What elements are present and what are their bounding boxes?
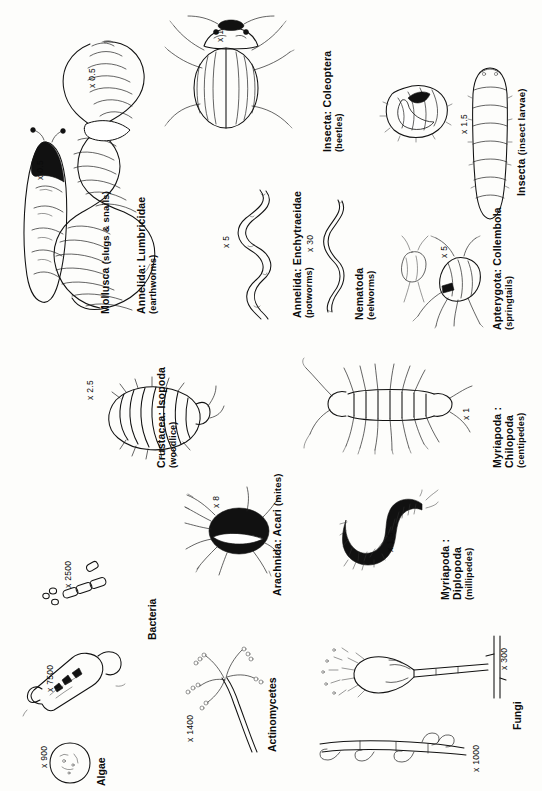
diplopoda-taxon-line2: Diplopoda	[452, 539, 464, 600]
isopoda-common-name: (woodlice)	[168, 367, 178, 468]
larva-icon	[468, 64, 512, 224]
nematoda-magnification: x 30	[306, 235, 316, 252]
chilopoda-taxon-line2: Chilopoda	[504, 407, 516, 468]
lumbricidae-common-name: (earthworms)	[148, 197, 158, 314]
coleoptera-common-name: (beetles)	[334, 51, 344, 152]
fungus-hypha-icon	[318, 728, 468, 770]
diplopoda-taxon-line1: Myriapoda :	[439, 539, 451, 600]
lumbricidae-magnification: x 0.5	[88, 68, 98, 88]
algae-cell-icon	[46, 740, 94, 786]
acari-label: Arachnida: Acari (mites)	[272, 473, 284, 596]
potworm-icon	[230, 188, 288, 320]
chilopoda-label: Myriapoda : Chilopoda (centipedes)	[492, 407, 526, 468]
collembola-taxon-name: Apterygota: Collembola	[491, 207, 503, 330]
actinomycetes-label: Actinomycetes	[267, 677, 279, 752]
bacteria-magnification: x 2500	[64, 561, 74, 588]
algae-magnification: x 900	[40, 746, 50, 768]
coleoptera-taxon-name: Insecta: Coleoptera	[321, 51, 333, 152]
chilopoda-common-name: (centipedes)	[516, 407, 526, 468]
enchytraeidae-taxon-name: Annelida: Enchytraeidae	[291, 191, 303, 318]
mollusca-magnification: x 0.5	[36, 160, 46, 180]
larva-curled-icon	[378, 78, 452, 142]
diplopoda-common-name: (millipedes)	[464, 539, 474, 600]
nematoda-taxon-name: Nematoda	[353, 268, 365, 320]
nematoda-label: Nematoda (eelworms)	[354, 268, 376, 320]
beetle-icon	[168, 18, 296, 150]
acari-magnification: x 8	[212, 496, 222, 508]
chilopoda-taxon-line1: Myriapoda :	[491, 407, 503, 468]
larvae-label: Insecta (insect larvae)	[516, 88, 528, 196]
mite-icon	[185, 485, 281, 577]
fungi-label: Fungi	[512, 701, 524, 730]
collembola-label: Apterygota: Collembola (springtails)	[492, 207, 514, 330]
fungus-conidiophore-icon	[318, 630, 508, 704]
acari-common-name: (mites)	[272, 473, 283, 506]
enchytraeidae-magnification: x 5	[222, 236, 232, 248]
centipede-icon	[302, 358, 472, 454]
enchytraeidae-label: Annelida: Enchytraeidae (potworms)	[292, 191, 314, 318]
larvae-taxon-name: Insecta	[515, 158, 527, 196]
isopoda-taxon-name: Crustacea: Isopoda	[155, 367, 167, 468]
bacteria-large-magnification: x 7500	[46, 665, 56, 692]
isopoda-label: Crustacea: Isopoda (woodlice)	[156, 367, 178, 468]
larvae-common-name: (insect larvae)	[516, 88, 527, 155]
millipede-icon	[330, 490, 438, 586]
coleoptera-magnification: x 1	[216, 30, 226, 42]
fungi-hypha-magnification: x 1000	[472, 745, 482, 772]
algae-label: Algae	[96, 757, 108, 786]
larvae-magnification: x 1.5	[460, 114, 470, 134]
bacteria-large-cell-icon	[22, 640, 126, 718]
isopoda-magnification: x 2.5	[86, 380, 96, 400]
diplopoda-label: Myriapoda : Diplopoda (millipedes)	[440, 539, 474, 600]
chilopoda-magnification: x 1	[462, 408, 472, 420]
fungi-magnification: x 300	[500, 648, 510, 670]
coleoptera-label: Insecta: Coleoptera (beetles)	[322, 51, 344, 152]
diplopoda-magnification: x 1.5	[386, 532, 396, 552]
collembola-magnification: x 5	[440, 246, 450, 258]
eelworm-icon	[312, 198, 354, 314]
actinomycetes-magnification: x 1400	[186, 715, 196, 742]
nematoda-common-name: (eelworms)	[366, 268, 376, 320]
acari-taxon-name: Arachnida: Acari	[271, 509, 283, 596]
collembola-common-name: (springtails)	[504, 207, 514, 330]
lumbricidae-label: Annelida: Lumbricidae (earthworms)	[136, 197, 158, 314]
bacteria-rods-icon	[40, 560, 118, 620]
bacteria-label: Bacteria	[147, 599, 159, 640]
figure-plate: x 900 Algae x 2500 x 7500 Bacteria	[0, 0, 542, 791]
lumbricidae-taxon-name: Annelida: Lumbricidae	[135, 197, 147, 314]
